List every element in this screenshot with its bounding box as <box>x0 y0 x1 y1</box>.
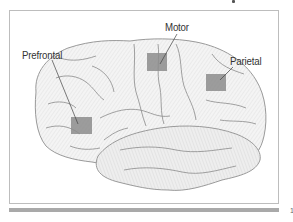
label-motor: Motor <box>165 21 189 33</box>
label-prefrontal: Prefrontal <box>22 49 62 61</box>
motor-marker <box>147 53 167 71</box>
prefrontal-marker <box>71 117 92 134</box>
bottom-divider-bar <box>9 208 279 212</box>
label-parietal: Parietal <box>230 55 261 67</box>
brain-illustration <box>0 0 293 222</box>
page-mark: 1 <box>290 207 293 214</box>
